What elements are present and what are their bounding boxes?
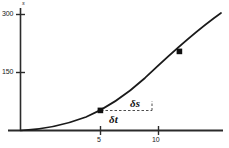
data-point-marker-1 xyxy=(98,108,104,114)
delta-s-label: δs xyxy=(130,97,140,109)
x-tick-label-5: 5 xyxy=(97,136,101,143)
y-tick-label-150: 150 xyxy=(2,68,13,75)
chart-canvas xyxy=(0,0,229,148)
curve-s-of-t xyxy=(21,13,222,131)
distance-time-graph: s 300 150 5 10 δs δt xyxy=(0,0,229,148)
y-tick-label-300: 300 xyxy=(2,10,13,17)
y-axis-label: s xyxy=(22,0,25,7)
data-point-marker-2 xyxy=(177,49,183,55)
delta-t-label: δt xyxy=(109,113,118,125)
x-tick-label-10: 10 xyxy=(152,136,159,143)
